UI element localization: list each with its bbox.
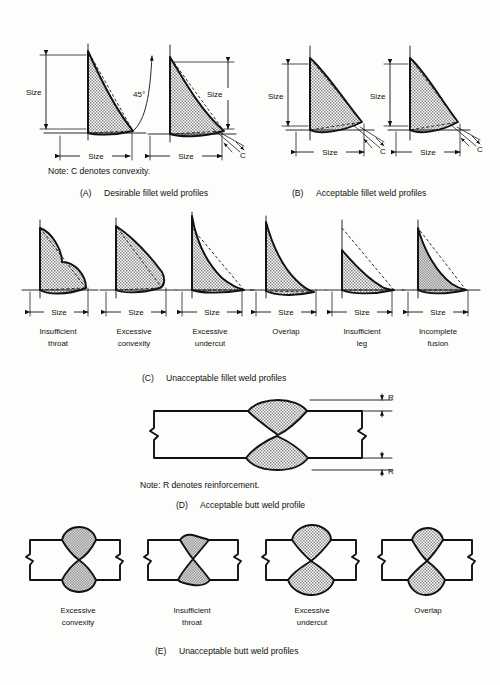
reinforcement-label-top: R xyxy=(388,393,394,402)
profile-convex-fillet-right: Size Size C xyxy=(370,46,483,158)
profile-insufficient-leg: Size Insufficient leg xyxy=(326,220,404,348)
section-a: Size Size 45° Size xyxy=(26,44,246,198)
profile-insufficient-throat-butt: Insufficient throat xyxy=(144,535,241,627)
label-c6-line2: fusion xyxy=(428,339,449,348)
convexity-label-b2: C xyxy=(477,145,483,154)
profile-excessive-convexity: Size Excessive convexity xyxy=(100,218,176,348)
label-c3-line2: undercut xyxy=(195,339,226,348)
profile-flat-fillet: Size Size C xyxy=(148,45,246,162)
weld-profiles-figure: Size Size 45° Size xyxy=(0,0,500,685)
label-e1-line2: convexity xyxy=(62,618,95,627)
profile-excessive-undercut-butt: Excessive undercut xyxy=(262,525,359,627)
angle-annotation-a: 45° xyxy=(133,56,152,131)
label-e2-line1: Insufficient xyxy=(173,606,211,615)
size-label-horizontal-a1: Size xyxy=(88,152,104,161)
profile-overlap: Size Overlap xyxy=(250,216,326,336)
size-label-vertical-a1: Size xyxy=(26,88,42,97)
caption-c-text: Unacceptable fillet weld profiles xyxy=(166,373,286,383)
size-label-c2: Size xyxy=(128,308,144,317)
label-c5-line2: leg xyxy=(357,339,367,348)
label-e4-line1: Overlap xyxy=(414,606,442,615)
label-c1-line2: throat xyxy=(48,339,69,348)
size-label-vertical-a2: Size xyxy=(207,90,223,99)
caption-a-tag: (A) xyxy=(80,188,92,198)
size-label-c3: Size xyxy=(204,308,220,317)
section-c: Size Insufficient throat Size Excessive … xyxy=(22,212,480,383)
profile-excessive-convexity-butt: Excessive convexity xyxy=(26,527,123,627)
caption-d-text: Acceptable butt weld profile xyxy=(200,500,305,510)
section-e: Excessive convexity Insufficient throat … xyxy=(26,525,475,656)
profile-convex-fillet-left: Size Size C xyxy=(268,46,386,158)
figure-page: Size Size 45° Size xyxy=(0,0,500,685)
convexity-label-b1: C xyxy=(380,147,386,156)
size-label-horizontal-b2: Size xyxy=(420,148,436,157)
caption-b-tag: (B) xyxy=(292,188,304,198)
label-e1-line1: Excessive xyxy=(60,606,95,615)
size-label-c4: Size xyxy=(278,308,294,317)
size-label-c5: Size xyxy=(354,308,370,317)
angle-label-45: 45° xyxy=(133,90,145,99)
size-label-horizontal-b1: Size xyxy=(322,148,338,157)
size-label-vertical-b1: Size xyxy=(268,92,284,101)
label-c5-line1: Insufficient xyxy=(343,327,381,336)
section-b: Size Size C Size Siz xyxy=(268,46,483,198)
size-label-c6: Size xyxy=(430,308,446,317)
note-reinforcement: Note: R denotes reinforcement. xyxy=(140,480,259,490)
caption-e-text: Unacceptable butt weld profiles xyxy=(179,646,298,656)
caption-e-tag: (E) xyxy=(155,646,167,656)
label-c2-line2: convexity xyxy=(118,339,151,348)
label-c6-line1: Incomplete xyxy=(419,327,457,336)
section-d: R R Note: R denotes reinforcement. (D) A… xyxy=(140,393,394,510)
caption-a-text: Desirable fillet weld profiles xyxy=(104,188,208,198)
label-e3-line1: Excessive xyxy=(294,606,329,615)
size-label-c1: Size xyxy=(51,308,67,317)
profile-concave-fillet: Size Size xyxy=(26,44,146,162)
caption-b-text: Acceptable fillet weld profiles xyxy=(316,188,426,198)
label-e3-line2: undercut xyxy=(297,618,328,627)
label-c1-line1: Insufficient xyxy=(39,327,77,336)
convexity-label-a2: C xyxy=(240,151,246,160)
size-label-horizontal-a2: Size xyxy=(178,152,194,161)
profile-insufficient-throat: Size Insufficient throat xyxy=(22,220,98,348)
caption-c-tag: (C) xyxy=(142,373,154,383)
label-c3-line1: Excessive xyxy=(192,327,227,336)
label-c2-line1: Excessive xyxy=(116,327,151,336)
profile-incomplete-fusion: Size Incomplete fusion xyxy=(402,220,480,348)
reinforcement-label-bottom: R xyxy=(388,467,394,476)
profile-overlap-butt: Overlap xyxy=(378,528,475,615)
size-label-vertical-b2: Size xyxy=(370,92,386,101)
label-c4-line1: Overlap xyxy=(272,327,300,336)
label-e2-line2: throat xyxy=(182,618,203,627)
note-convexity: Note: C denotes convexity. xyxy=(48,166,150,176)
caption-d-tag: (D) xyxy=(176,500,188,510)
profile-excessive-undercut: Size Excessive undercut xyxy=(176,212,254,348)
